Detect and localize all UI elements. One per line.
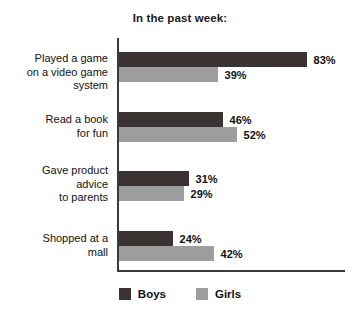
bar-value-boys-1: 83%	[314, 54, 336, 66]
legend-item-girls: Girls	[196, 288, 241, 300]
category-label-1: Played a game on a video game system	[0, 52, 108, 93]
legend-label-boys: Boys	[138, 288, 166, 300]
category-label-3: Gave product advice to parents	[0, 164, 108, 205]
bar-boys-3	[119, 171, 189, 186]
legend-label-girls: Girls	[215, 288, 241, 300]
bar-boys-2	[119, 112, 223, 127]
legend-swatch-girls-icon	[196, 288, 208, 300]
bar-girls-1	[119, 67, 218, 82]
plot-area: Played a game on a video game system 83%…	[117, 38, 345, 272]
bar-value-girls-4: 42%	[221, 248, 243, 260]
bar-value-girls-3: 29%	[191, 188, 213, 200]
bar-girls-4	[119, 246, 214, 261]
chart-legend: Boys Girls	[0, 288, 360, 300]
bar-value-girls-1: 39%	[225, 69, 247, 81]
bar-girls-2	[119, 127, 237, 142]
legend-item-boys: Boys	[119, 288, 166, 300]
bar-chart: In the past week: Played a game on a vid…	[0, 0, 360, 323]
x-axis-line	[117, 270, 345, 272]
category-label-4: Shopped at a mall	[0, 232, 108, 259]
bar-girls-3	[119, 186, 184, 201]
category-label-2: Read a book for fun	[0, 113, 108, 140]
legend-swatch-boys-icon	[119, 288, 131, 300]
bar-boys-4	[119, 231, 173, 246]
bar-value-boys-3: 31%	[196, 173, 218, 185]
bar-boys-1	[119, 52, 307, 67]
bar-value-boys-2: 46%	[230, 114, 252, 126]
bar-value-girls-2: 52%	[244, 129, 266, 141]
bar-value-boys-4: 24%	[180, 233, 202, 245]
chart-title: In the past week:	[0, 12, 360, 24]
